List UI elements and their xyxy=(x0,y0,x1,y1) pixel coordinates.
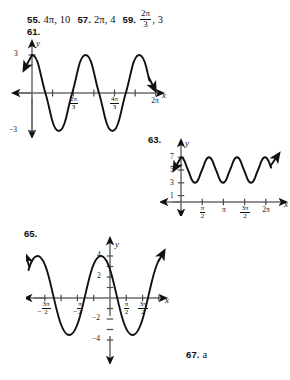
tick-fraction: 3π 2 xyxy=(138,301,147,316)
tick-fraction-numerator: 3π xyxy=(240,205,249,212)
graph-65-x-tick-label-neg-pi-over-2: − π 2 xyxy=(68,301,88,316)
answer-value-55: 4π, 10 xyxy=(44,14,71,25)
answer-number-67: 67. xyxy=(186,349,200,360)
graph-63-y-tick-label-7: 7 xyxy=(170,152,174,161)
tick-fraction-numerator: π xyxy=(200,205,206,212)
graph-63-y-axis-label: y xyxy=(185,138,189,148)
graph-63-y-tick-label-3: 3 xyxy=(170,178,174,187)
graph-63-x-tick-label-2pi: 2π xyxy=(258,205,274,214)
tick-fraction: π 2 xyxy=(77,301,83,316)
tick-fraction-numerator: 3π xyxy=(42,301,51,308)
graph-65-x-axis-label: x xyxy=(165,295,169,305)
answer-value-59-suffix: , 3 xyxy=(152,14,163,25)
graph-65-curve-right-arrow xyxy=(159,254,163,261)
graph-61-x-tick-label-4pi-over-3: 4π 3 xyxy=(106,96,123,111)
graph-63-x-axis-label: x xyxy=(284,199,288,209)
graph-61-x-tick-label-2pi-over-3: 2π 3 xyxy=(65,96,82,111)
graph-63-x-tick-label-pi-over-2: π 2 xyxy=(196,205,209,220)
tick-fraction-denominator: 2 xyxy=(77,308,83,316)
graph-61-curve-right-arrow xyxy=(149,77,154,88)
graph-65-x-tick-label-pi-over-2: π 2 xyxy=(120,301,133,316)
graph-61: y x 3 −3 2π 3 4π 3 2π xyxy=(10,38,175,138)
tick-fraction-denominator: 3 xyxy=(110,103,119,111)
graph-65: y x 4 2 −2 −4 − 3π 2 − π 2 π 2 xyxy=(26,236,176,364)
graph-61-curve-left-arrow xyxy=(26,55,33,67)
tick-fraction-denominator: 2 xyxy=(42,308,51,316)
graph-63-curve xyxy=(181,157,271,183)
answer-value-67: a xyxy=(203,349,208,360)
graph-63-curve-right-arrow xyxy=(270,157,277,167)
graph-61-y-tick-label-neg3: −3 xyxy=(9,125,17,134)
tick-fraction: 2π 3 xyxy=(69,96,78,111)
tick-fraction-denominator: 2 xyxy=(124,308,130,316)
answer-key-page: 55.4π, 1057.2π, 459.2π3, 3 61. xyxy=(0,0,290,380)
tick-fraction-denominator: 2 xyxy=(138,308,147,316)
graph-61-y-axis-label: y xyxy=(36,38,40,48)
tick-fraction: 3π 2 xyxy=(240,205,249,220)
graph-63: y x 7 5 3 1 π 2 π 3π 2 2π xyxy=(160,136,290,216)
tick-fraction-numerator: π xyxy=(77,301,83,308)
graph-63-x-tick-label-pi: π xyxy=(218,205,230,214)
tick-fraction-denominator: 2 xyxy=(240,212,249,220)
tick-fraction-numerator: 2π xyxy=(69,96,78,103)
graph-63-svg xyxy=(160,136,290,216)
graph-63-x-tick-label-3pi-over-2: 3π 2 xyxy=(237,205,253,220)
answer-value-57: 2π, 4 xyxy=(94,14,116,25)
graph-65-y-tick-label-neg2: −2 xyxy=(92,313,100,322)
tick-fraction-denominator: 2 xyxy=(200,212,206,220)
answer-number-59: 59. xyxy=(123,14,137,25)
graph-63-curve-left-arrow xyxy=(176,157,182,167)
graph-63-y-tick-label-5: 5 xyxy=(170,165,174,174)
answers-row-55-57-59: 55.4π, 1057.2π, 459.2π3, 3 xyxy=(27,9,163,29)
graph-61-svg xyxy=(10,38,175,138)
fraction-numerator: 2π xyxy=(140,9,151,19)
tick-fraction-denominator: 3 xyxy=(69,103,78,111)
graph-65-y-axis-label: y xyxy=(115,239,119,249)
tick-fraction: π 2 xyxy=(124,301,130,316)
problem-label-61: 61. xyxy=(27,26,40,37)
graph-61-y-tick-label-3: 3 xyxy=(14,49,18,58)
graph-65-x-tick-label-3pi-over-2: 3π 2 xyxy=(135,301,151,316)
fraction-denominator: 3 xyxy=(140,19,151,30)
graph-61-x-tick-label-2pi: 2π xyxy=(146,96,164,105)
tick-fraction-numerator: 3π xyxy=(138,301,147,308)
graph-65-curve-left-arrow xyxy=(27,258,30,268)
tick-fraction: 4π 3 xyxy=(110,96,119,111)
graph-65-y-tick-label-4: 4 xyxy=(97,250,101,259)
graph-65-x-tick-label-neg-3pi-over-2: − 3π 2 xyxy=(33,301,55,316)
graph-63-y-tick-label-1: 1 xyxy=(170,191,174,200)
graph-65-y-tick-label-neg4: −4 xyxy=(92,334,100,343)
answer-number-57: 57. xyxy=(77,14,91,25)
tick-fraction: π 2 xyxy=(200,205,206,220)
answer-number-55: 55. xyxy=(27,14,41,25)
answer-value-59-fraction: 2π3 xyxy=(140,9,151,29)
answer-row-67: 67.a xyxy=(186,350,207,361)
tick-fraction: 3π 2 xyxy=(42,301,51,316)
tick-fraction-numerator: π xyxy=(124,301,130,308)
graph-65-y-tick-label-2: 2 xyxy=(97,271,101,280)
tick-fraction-numerator: 4π xyxy=(110,96,119,103)
